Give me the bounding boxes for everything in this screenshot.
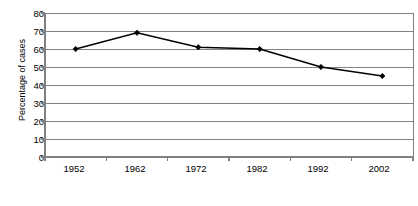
gridlines <box>45 13 413 139</box>
data-point-marker-1992 <box>318 64 323 69</box>
data-point-marker-1982 <box>257 46 262 51</box>
data-point-marker-2002 <box>380 73 385 78</box>
data-point-marker-1952 <box>73 46 78 51</box>
data-series-line <box>76 33 383 76</box>
plot-area <box>0 0 418 206</box>
line-chart: Percentage of cases 0 10 20 30 40 50 60 … <box>0 0 418 206</box>
